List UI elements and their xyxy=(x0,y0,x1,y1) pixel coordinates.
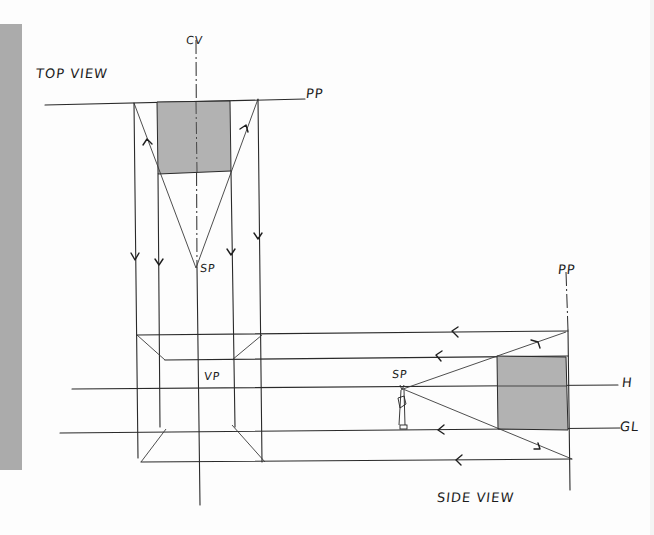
diagram-page: TOP VIEW CV PP SP VP PP SP H GL SIDE VIE… xyxy=(0,0,654,535)
center-vertical-line xyxy=(197,268,200,505)
object-top-view xyxy=(157,101,231,174)
vanishing-point-label: VP xyxy=(203,370,221,383)
ground-line-label: GL xyxy=(619,419,640,434)
side-view-label: SIDE VIEW xyxy=(436,490,515,505)
object-side-view xyxy=(497,356,568,430)
observer-figure-icon xyxy=(398,385,407,429)
picture-plane-top-label: PP xyxy=(305,86,324,101)
center-of-vision-label: CV xyxy=(185,34,204,47)
station-point-top-label: SP xyxy=(199,262,216,275)
picture-plane-side-line xyxy=(566,272,568,330)
picture-plane-side-label: PP xyxy=(557,262,576,277)
station-point-side-label: SP xyxy=(391,368,408,381)
top-view-label: TOP VIEW xyxy=(35,66,109,81)
horizon-label: H xyxy=(621,375,633,390)
